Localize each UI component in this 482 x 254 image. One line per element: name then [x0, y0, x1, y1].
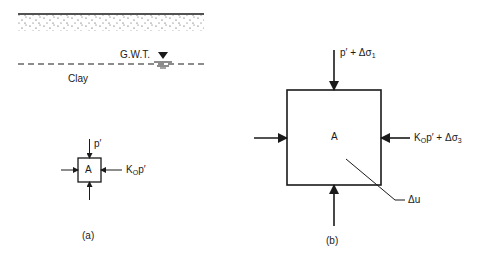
horizontal-stress-label-b: KOp′ + Δσ3 [414, 133, 462, 144]
sigma-1-subscript: 1 [372, 52, 376, 59]
pore-pressure-label: Δu [408, 195, 420, 205]
clay-label: Clay [68, 74, 88, 84]
gwt-label: G.W.T. [120, 50, 150, 60]
ground-surface [18, 14, 204, 31]
k-symbol: K [126, 164, 133, 175]
caption-a: (a) [82, 231, 94, 241]
diagram-canvas [0, 0, 482, 254]
element-a-label-large: A [331, 132, 338, 142]
vertical-stress-label-a: p′ [94, 139, 101, 149]
pore-pressure-leader-line [346, 159, 405, 200]
vertical-stress-label-b: p′ + Δσ1 [340, 48, 376, 59]
horizontal-stress-text: p′ + Δσ [426, 132, 458, 143]
horizontal-stress-label-a: KOp′ [126, 165, 146, 176]
element-a-label-small: A [85, 165, 92, 175]
water-table-triangle-icon [154, 52, 172, 68]
p-prime: p′ [138, 164, 145, 175]
sigma-3-subscript: 3 [458, 137, 462, 144]
caption-b: (b) [326, 236, 338, 246]
k-symbol-b: K [414, 132, 421, 143]
vertical-stress-text: p′ + Δσ [340, 47, 372, 58]
